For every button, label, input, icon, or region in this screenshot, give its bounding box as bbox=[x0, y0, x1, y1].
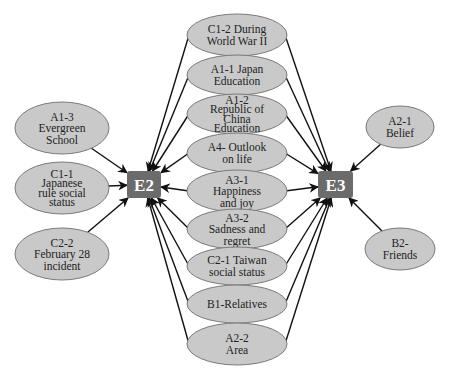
node-label-line: School bbox=[46, 134, 78, 146]
edge-a1-2-to-e3 bbox=[285, 114, 326, 171]
edge-a3-2-to-e2 bbox=[158, 198, 189, 229]
node-a2-1: A2-1Belief bbox=[366, 106, 434, 148]
hub-label: E3 bbox=[326, 176, 346, 195]
node-c1-1: C1-1Japaneserule socialstatus bbox=[15, 162, 109, 214]
node-label-line: Education bbox=[214, 122, 261, 134]
node-c1-2: C1-2 DuringWorld War II bbox=[187, 14, 287, 56]
edge-c1-2-to-e2 bbox=[148, 35, 189, 171]
node-label-line: C2-1 Taiwan bbox=[207, 254, 267, 266]
node-label-line: and joy bbox=[220, 197, 254, 210]
edge-c1-2-to-e3 bbox=[285, 35, 331, 171]
edge-a2-2-to-e2 bbox=[148, 198, 189, 344]
node-label-line: Belief bbox=[386, 127, 414, 139]
node-b2: B2-Friends bbox=[365, 228, 435, 270]
nodes-layer: C1-2 DuringWorld War IIA1-1 JapanEducati… bbox=[15, 14, 435, 365]
node-label-line: World War II bbox=[207, 35, 268, 47]
node-label-line: Area bbox=[226, 344, 248, 356]
node-label-line: C2-2 bbox=[51, 237, 74, 249]
hub-e3: E3 bbox=[318, 171, 353, 198]
edge-c1-1-to-e2 bbox=[109, 185, 127, 186]
edge-a1-3-to-e2 bbox=[91, 148, 127, 173]
node-label-line: Sadness and bbox=[209, 223, 266, 235]
edge-a4-to-e2 bbox=[161, 153, 189, 173]
node-a3-2: A3-2Sadness andregret bbox=[187, 209, 287, 249]
edge-a3-1-to-e3 bbox=[285, 187, 318, 191]
node-label-line: incident bbox=[43, 260, 81, 272]
node-label-line: on life bbox=[222, 153, 252, 165]
node-label-line: A1-3 bbox=[50, 111, 74, 123]
edge-a1-2-to-e2 bbox=[153, 114, 189, 171]
node-a2-2: A2-2Area bbox=[187, 323, 287, 365]
node-label-line: status bbox=[49, 196, 76, 208]
edge-a2-1-to-e3 bbox=[351, 144, 381, 171]
node-a4: A4- Outlookon life bbox=[187, 133, 287, 173]
node-label-line: A4- Outlook bbox=[208, 141, 267, 153]
node-label-line: regret bbox=[224, 235, 252, 248]
node-label-line: A2-2 bbox=[225, 332, 249, 344]
node-label-line: social status bbox=[209, 266, 265, 278]
hub-label: E2 bbox=[134, 176, 154, 195]
node-a3-1: A3-1Happinessand joy bbox=[187, 170, 287, 212]
edge-a2-2-to-e3 bbox=[285, 198, 331, 344]
node-label-line: A2-1 bbox=[388, 115, 412, 127]
node-a1-1: A1-1 JapanEducation bbox=[187, 55, 287, 95]
edge-b2-to-e3 bbox=[349, 198, 382, 231]
edge-a3-1-to-e2 bbox=[161, 187, 189, 191]
node-label-line: Education bbox=[214, 75, 261, 87]
node-a1-3: A1-3EvergreenSchool bbox=[15, 102, 109, 154]
node-label-line: A3-1 bbox=[225, 174, 249, 186]
edge-a4-to-e3 bbox=[285, 153, 318, 174]
edge-a3-2-to-e3 bbox=[285, 198, 320, 229]
concept-diagram: C1-2 DuringWorld War IIA1-1 JapanEducati… bbox=[0, 0, 450, 382]
node-b1: B1-Relatives bbox=[187, 285, 287, 323]
node-label-line: Friends bbox=[383, 249, 418, 261]
edge-b1-to-e2 bbox=[149, 198, 189, 304]
node-label-line: B2- bbox=[391, 237, 408, 249]
node-label-line: B1-Relatives bbox=[207, 298, 268, 310]
hub-e2: E2 bbox=[127, 171, 161, 198]
node-c2-2: C2-2February 28incident bbox=[15, 228, 109, 280]
node-label-line: A3-2 bbox=[225, 212, 249, 224]
edge-b1-to-e3 bbox=[285, 198, 330, 304]
node-c2-1: C2-1 Taiwansocial status bbox=[187, 247, 287, 285]
node-a1-2: A1-2Republic ofChinaEducation bbox=[187, 94, 287, 135]
